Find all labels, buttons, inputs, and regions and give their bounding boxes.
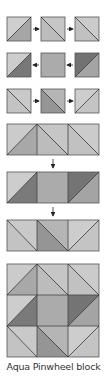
step-row-1 xyxy=(7,17,99,41)
sewn-strip-3 xyxy=(7,220,99,251)
step-row-3 xyxy=(7,89,99,113)
quilt-assembly-diagram xyxy=(0,0,107,376)
hst-unit xyxy=(7,53,31,77)
hst-unit xyxy=(41,17,65,41)
diagram-caption: Aqua Pinwheel block xyxy=(0,361,107,372)
hst-unit xyxy=(41,89,65,113)
hst-unit xyxy=(7,89,31,113)
sewn-strip-1 xyxy=(7,124,99,155)
hst-unit xyxy=(7,17,31,41)
step-row-2 xyxy=(7,53,99,77)
hst-unit xyxy=(75,89,99,113)
final-pinwheel-block xyxy=(7,264,99,357)
plain-square-unit xyxy=(41,53,65,77)
hst-unit xyxy=(75,53,99,77)
hst-unit xyxy=(75,17,99,41)
sewn-strip-2 xyxy=(7,172,99,203)
